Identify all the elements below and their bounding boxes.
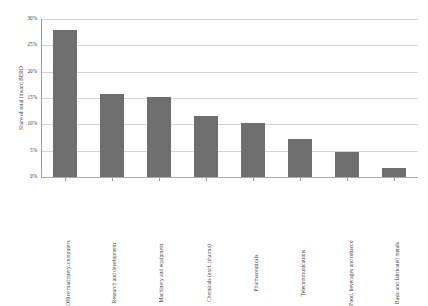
y-axis-tick-label: 10% (27, 122, 37, 127)
x-axis-category-label: Basic and fabricated metals (388, 181, 400, 275)
bar (382, 168, 406, 177)
x-axis-category-label-text: Telecommunications (300, 250, 306, 297)
bar (194, 116, 218, 177)
x-axis-category-labels: Office machinery, computersResearch and … (41, 181, 418, 277)
x-axis-category-label-text: Basic and fabricated metals (394, 242, 400, 304)
x-axis-category-label-text: Chemicals (excl. pharma) (206, 244, 212, 302)
x-axis-category-label-text: Machinery and equipment (159, 244, 165, 303)
x-axis-category-label: Machinery and equipment (153, 181, 165, 275)
x-axis-category-label: Office machinery, computers (59, 181, 71, 275)
bar (53, 30, 77, 177)
y-axis-tick-label: 30% (27, 16, 37, 21)
x-axis-category-label: Research and development (106, 181, 118, 275)
x-axis-category-label-text: Office machinery, computers (65, 240, 71, 305)
x-axis-category-label: Chemicals (excl. pharma) (200, 181, 212, 275)
bar (100, 94, 124, 177)
y-axis-tick-label: 20% (27, 69, 37, 74)
bar (241, 123, 265, 177)
y-axis-tick-label: 0% (30, 174, 37, 179)
y-axis-tick-label: 5% (30, 148, 37, 153)
y-axis-tick-label: 15% (27, 95, 37, 100)
x-axis-category-label: Pharmaceuticals (247, 181, 259, 275)
bar (288, 139, 312, 177)
y-axis-tick-labels: 30%25%20%15%10%5%0% (22, 19, 39, 177)
x-axis-category-label-text: Pharmaceuticals (253, 255, 259, 292)
bars-layer (41, 19, 418, 177)
bar (147, 97, 171, 177)
x-axis-category-label-text: Food, beverages and tobacco (347, 240, 353, 305)
x-axis-category-label: Food, beverages and tobacco (341, 181, 353, 275)
x-axis-category-label-text: Research and development (112, 243, 118, 303)
y-axis-tick-label: 25% (27, 43, 37, 48)
x-axis-category-label: Telecommunications (294, 181, 306, 275)
bar (335, 152, 359, 177)
